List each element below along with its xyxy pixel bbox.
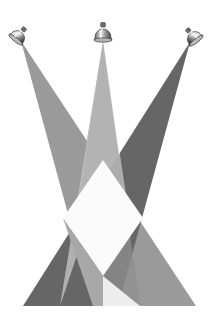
fixture-center-aperture: [94, 38, 112, 42]
scene-canvas: [0, 0, 215, 318]
spotlight-scene: Three Crossing Spotlight Beams Three cei…: [0, 0, 215, 318]
fixture-center-mount: [101, 23, 106, 27]
